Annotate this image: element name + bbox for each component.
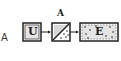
box-e-label: E <box>95 26 103 38</box>
arrow-middle-to-e <box>70 31 79 34</box>
box-middle <box>52 23 70 41</box>
arrow-u-to-middle <box>41 31 51 34</box>
box-u-label: U <box>28 26 38 38</box>
